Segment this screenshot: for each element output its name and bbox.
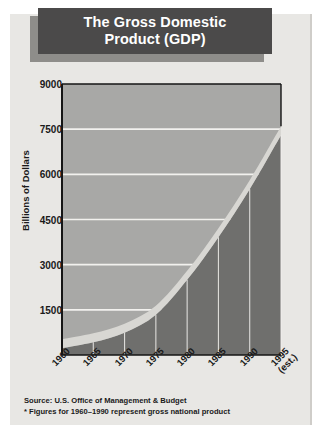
x-tick-label: 1990 [238, 346, 260, 368]
source-note: Source: U.S. Office of Management & Budg… [24, 396, 274, 407]
figures-note: * Figures for 1960–1990 represent gross … [24, 407, 274, 418]
x-tick-label: 1985 [206, 346, 228, 368]
gdp-area-chart: Billions of Dollars 15003000450060007500… [0, 0, 298, 433]
x-tick-label: 1995(est.) [269, 345, 298, 375]
x-axis-ticks: 19601965197019751980198519901995(est.) [0, 0, 298, 433]
x-tick-label: 1960 [50, 346, 72, 368]
x-tick-label: 1980 [175, 346, 197, 368]
x-tick-label: 1970 [113, 346, 135, 368]
x-tick-label: 1965 [81, 346, 103, 368]
x-tick-label: 1975 [144, 346, 166, 368]
chart-footnotes: Source: U.S. Office of Management & Budg… [24, 396, 274, 418]
poster-page: The Gross Domestic Product (GDP) Billion… [0, 0, 298, 433]
